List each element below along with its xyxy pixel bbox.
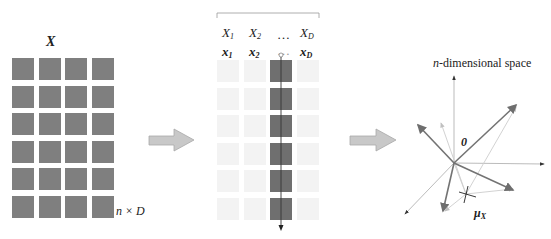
mean-label: μX — [474, 206, 486, 221]
vector-space-diagram — [0, 0, 551, 239]
origin-label: 0 — [461, 135, 467, 150]
